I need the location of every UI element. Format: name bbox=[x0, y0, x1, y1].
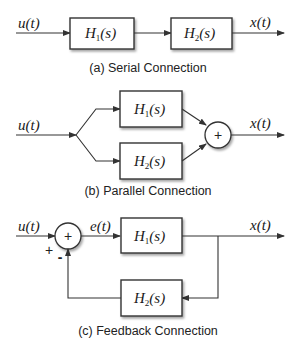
parallel-connection: u(t) H1(s) H2(s) + x(t) (b) Parallel Con… bbox=[16, 91, 284, 198]
parallel-caption: (b) Parallel Connection bbox=[84, 184, 211, 198]
parallel-h1-label: H1(s) bbox=[133, 101, 165, 119]
feedback-sum-symbol: + bbox=[64, 228, 72, 244]
serial-h2-label: H2(s) bbox=[183, 25, 215, 43]
parallel-h1-to-sum bbox=[182, 109, 206, 125]
feedback-error-label: e(t) bbox=[90, 218, 111, 235]
feedback-h2-label: H2(s) bbox=[133, 290, 165, 308]
block-diagrams: u(t) H1(s) H2(s) x(t) (a) Serial Connect… bbox=[0, 0, 297, 349]
feedback-h1-label: H1(s) bbox=[133, 228, 165, 246]
parallel-output-label: x(t) bbox=[249, 115, 271, 132]
parallel-branch-lower bbox=[76, 135, 120, 161]
parallel-sum-symbol: + bbox=[214, 127, 222, 143]
feedback-to-sum-path bbox=[68, 249, 121, 298]
parallel-input-label: u(t) bbox=[18, 117, 40, 134]
parallel-h2-to-sum bbox=[182, 144, 206, 161]
feedback-connection: u(t) + + - e(t) H1(s) x(t) H2(s) (c) Fee… bbox=[16, 217, 284, 338]
feedback-return-path bbox=[182, 236, 218, 298]
feedback-input-label: u(t) bbox=[18, 218, 40, 235]
serial-output-label: x(t) bbox=[249, 14, 271, 31]
parallel-h2-label: H2(s) bbox=[133, 153, 165, 171]
serial-h1-label: H1(s) bbox=[84, 25, 116, 43]
serial-input-label: u(t) bbox=[18, 15, 40, 32]
serial-connection: u(t) H1(s) H2(s) x(t) (a) Serial Connect… bbox=[16, 14, 284, 75]
serial-caption: (a) Serial Connection bbox=[89, 61, 206, 75]
feedback-plus-sign: + bbox=[45, 242, 53, 258]
feedback-minus-sign: - bbox=[58, 249, 63, 265]
feedback-output-label: x(t) bbox=[249, 217, 271, 234]
parallel-branch-upper bbox=[76, 109, 120, 135]
feedback-caption: (c) Feedback Connection bbox=[78, 324, 218, 338]
